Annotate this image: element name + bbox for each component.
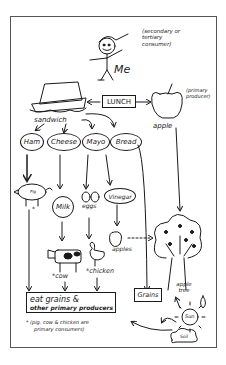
producers-line-2: other primary producers: [30, 304, 113, 311]
ingredient-cheese: Cheese: [47, 133, 81, 151]
ingredient-label: Ham: [24, 138, 40, 146]
ingredient-mayo: Mayo: [82, 133, 110, 151]
cow-icon: [48, 250, 81, 272]
vinegar-oval: Vinegar: [104, 188, 136, 204]
grains-box: Grains: [134, 288, 162, 302]
ingredient-label: Bread: [116, 138, 137, 146]
lunch-label: LUNCH: [107, 98, 131, 106]
apples-label: apples: [112, 246, 132, 252]
footnote-line-1: * (pig, cow & chicken are: [26, 320, 89, 326]
milk-label: Milk: [56, 203, 70, 211]
producers-line-1: eat grains &: [30, 295, 79, 304]
pig-label: Pig: [30, 190, 36, 194]
me-label: Me: [114, 64, 130, 75]
pig-icon: [14, 184, 52, 206]
apple-label: apple: [153, 123, 172, 130]
vinegar-label: Vinegar: [108, 193, 131, 200]
apple-tree-label: apple tree: [172, 281, 196, 294]
sandwich-label: sandwich: [34, 117, 67, 124]
cow-label: *cow: [52, 273, 68, 280]
grains-label: Grains: [137, 291, 158, 299]
chicken-icon: [90, 242, 104, 266]
eggs-label: eggs: [82, 203, 96, 209]
apple-note: (primary producer): [186, 88, 214, 100]
apple-icon: [152, 84, 183, 118]
sandwich-icon: [30, 82, 86, 112]
apple-tree-icon: [154, 214, 201, 290]
footnote-line-2: primary consumers): [34, 327, 84, 333]
ingredient-bread: Bread: [110, 133, 142, 151]
primary-producers-box: eat grains & other primary producers: [26, 292, 116, 313]
ingredient-label: Cheese: [51, 138, 77, 146]
lunch-box: LUNCH: [102, 95, 136, 108]
pig-star: *: [32, 206, 35, 212]
chicken-label: *chicken: [86, 268, 114, 275]
sun-label: Sun: [185, 314, 195, 319]
ingredient-label: Mayo: [87, 138, 106, 146]
water-drop-icon: [201, 296, 206, 308]
milk-oval: Milk: [52, 196, 74, 218]
me-note: (secondary or tertiary consumer): [142, 28, 190, 47]
ingredient-ham: Ham: [20, 133, 44, 151]
soil-label: Soil: [180, 335, 188, 340]
